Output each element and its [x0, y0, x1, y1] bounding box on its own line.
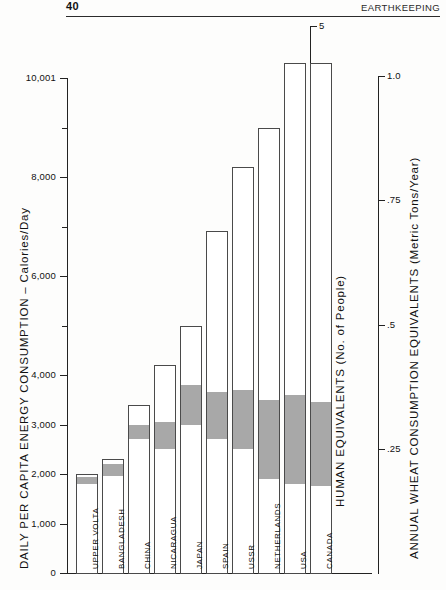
left-axis-tick	[60, 177, 67, 178]
bar-band	[207, 392, 227, 439]
left-axis-tick	[60, 524, 67, 525]
bar-label: UPPER VOLTA	[91, 508, 100, 569]
human-equivalents-tick-label: 5	[319, 20, 324, 31]
wheat-equivalents-tick-label: .25	[387, 443, 401, 454]
wheat-equivalents-tick	[378, 76, 385, 77]
left-axis-tick	[60, 276, 67, 277]
left-axis-title: DAILY PER CAPITA ENERGY CONSUMPTION – Ca…	[18, 207, 30, 569]
left-axis-tick	[60, 78, 67, 79]
left-axis-tick	[60, 375, 67, 376]
bar-label: NETHERLANDS	[273, 503, 282, 569]
bar-band	[77, 477, 97, 484]
wheat-equivalents-tick	[378, 449, 385, 450]
bar-japan[interactable]	[180, 326, 202, 574]
left-axis-minor-tick	[62, 227, 67, 228]
left-axis-tick	[60, 425, 67, 426]
left-axis-tick-label: 8,000	[0, 171, 56, 182]
left-axis-line	[67, 78, 68, 574]
left-axis-tick	[60, 474, 67, 475]
wheat-equivalents-tick	[378, 325, 385, 326]
bar-band	[155, 422, 175, 449]
left-axis-tick	[60, 573, 67, 574]
wheat-equivalents-tick-label: 1.0	[387, 70, 401, 81]
bar-band	[181, 385, 201, 425]
bar-label: CANADA	[325, 532, 334, 569]
bar-band	[129, 425, 149, 439]
human-equivalents-tick	[310, 26, 317, 27]
bar-canada[interactable]	[310, 63, 332, 574]
left-axis-minor-tick	[62, 326, 67, 327]
wheat-equivalents-axis-title: ANNUAL WHEAT CONSUMPTION EQUIVALENTS (Me…	[408, 157, 420, 559]
bar-label: USA	[299, 551, 308, 569]
bar-usa[interactable]	[284, 63, 306, 574]
wheat-equivalents-tick	[378, 200, 385, 201]
bar-label: JAPAN	[195, 541, 204, 569]
bar-label: USSR	[247, 544, 256, 569]
left-axis-minor-tick	[62, 128, 67, 129]
bar-band	[285, 395, 305, 484]
left-axis-tick-label: 10,001	[0, 72, 56, 83]
human-equivalents-axis-title: HUMAN EQUIVALENTS (No. of People)	[334, 275, 346, 507]
bar-label: SPAIN	[221, 543, 230, 569]
bar-band	[259, 400, 279, 479]
bar-band	[233, 390, 253, 449]
bar-label: NICARAGUA	[169, 516, 178, 569]
bar-label: BANGLADESH	[117, 508, 126, 569]
bar-label: CHINA	[143, 541, 152, 569]
bar-chart: 10,0018,0006,0004,0003,0002,0001,0000DAI…	[0, 0, 446, 590]
wheat-equivalents-tick-label: .5	[387, 319, 395, 330]
wheat-equivalents-tick-label: .75	[387, 194, 401, 205]
bar-band	[311, 402, 331, 486]
bar-ussr[interactable]	[232, 167, 254, 574]
bar-band	[103, 464, 123, 476]
